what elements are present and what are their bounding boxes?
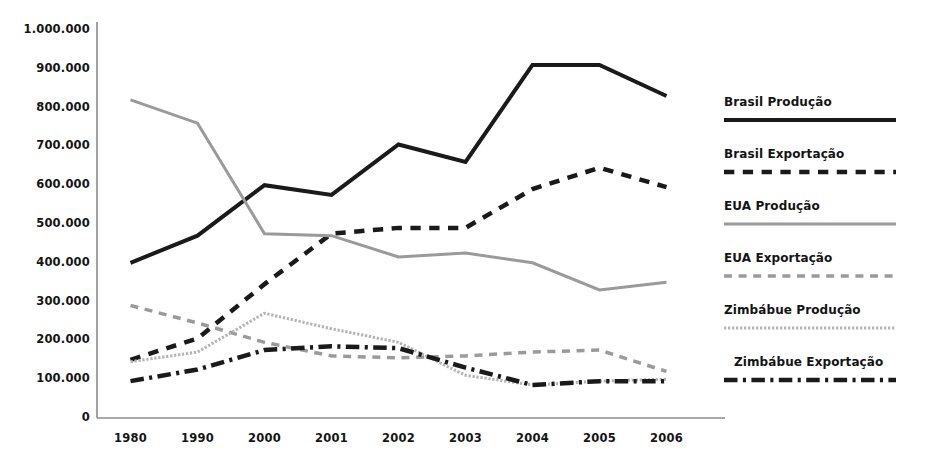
line-chart-figure: 0100.000200.000300.000400.000500.000600.… [0, 0, 931, 466]
legend-label: EUA Exportação [724, 252, 924, 265]
series-line-4 [131, 313, 667, 385]
series-line-2 [131, 100, 667, 290]
legend-entry-2[interactable]: EUA Produção [724, 200, 924, 252]
legend-entry-0[interactable]: Brasil Produção [724, 96, 924, 148]
legend-label: Brasil Exportação [724, 148, 924, 161]
chart-legend: Brasil ProduçãoBrasil ExportaçãoEUA Prod… [724, 96, 924, 408]
legend-swatch-0 [724, 116, 896, 124]
legend-label: Brasil Produção [724, 96, 924, 109]
series-line-5 [131, 346, 667, 385]
legend-swatch-1 [724, 168, 896, 176]
series-line-1 [131, 168, 667, 360]
legend-entry-5[interactable]: Zimbábue Exportação [724, 356, 924, 408]
series-line-0 [131, 65, 667, 263]
legend-swatch-5 [724, 376, 896, 384]
legend-label: EUA Produção [724, 200, 924, 213]
legend-swatch-2 [724, 220, 896, 228]
legend-entry-3[interactable]: EUA Exportação [724, 252, 924, 304]
x-tick-label: 2006 [627, 433, 707, 445]
legend-label: Zimbábue Produção [724, 304, 924, 317]
legend-label: Zimbábue Exportação [724, 356, 924, 369]
series-lines [131, 65, 667, 385]
legend-entry-1[interactable]: Brasil Exportação [724, 148, 924, 200]
legend-entry-4[interactable]: Zimbábue Produção [724, 304, 924, 356]
series-line-3 [131, 305, 667, 371]
legend-swatch-3 [724, 272, 896, 280]
legend-swatch-4 [724, 324, 896, 332]
